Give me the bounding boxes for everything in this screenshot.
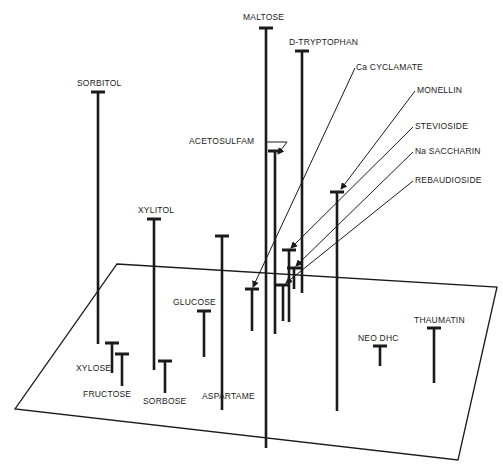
sweetener-3d-diagram: MALTOSED-TRYPTOPHANSORBITOLACETOSULFAMXY…: [0, 0, 503, 475]
label-glucose: GLUCOSE: [173, 297, 216, 307]
label-ca-cyclamate: Ca CYCLAMATE: [356, 62, 423, 72]
label-aspartame: ASPARTAME: [202, 391, 255, 401]
leader-monellin: [341, 91, 415, 189]
leader-rebaudioside: [286, 181, 413, 283]
label-maltose: MALTOSE: [243, 12, 284, 22]
label-d-tryptophan: D-TRYPTOPHAN: [289, 37, 358, 47]
label-acetosulfam: ACETOSULFAM: [189, 136, 254, 146]
label-neo-dhc: NEO DHC: [358, 333, 399, 343]
label-sorbose: SORBOSE: [143, 396, 186, 406]
label-rebaudioside: REBAUDIOSIDE: [415, 175, 482, 185]
label-stevioside: STEVIOSIDE: [415, 121, 468, 131]
label-thaumatin: THAUMATIN: [414, 315, 465, 325]
leader-ca-cyclamate: [253, 68, 355, 287]
label-xylitol: XYLITOL: [138, 205, 174, 215]
label-xylose: XYLOSE: [76, 363, 111, 373]
label-sorbitol: SORBITOL: [77, 78, 121, 88]
base-plane: [15, 264, 497, 460]
label-monellin: MONELLIN: [417, 85, 462, 95]
leader-na-saccharin: [296, 152, 413, 266]
label-na-saccharin: Na SACCHARIN: [415, 146, 481, 156]
label-fructose: FRUCTOSE: [83, 389, 131, 399]
diagram-canvas: [0, 0, 503, 475]
